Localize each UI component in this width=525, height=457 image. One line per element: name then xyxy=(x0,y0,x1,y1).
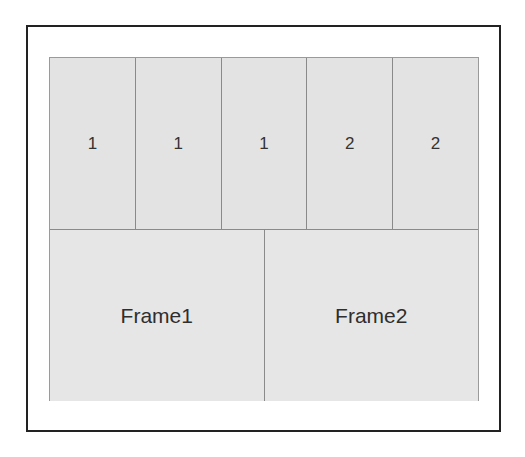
frame-block-2: Frame2 xyxy=(265,230,479,401)
slot-cell-4: 2 xyxy=(307,58,393,229)
slot-cell-2: 1 xyxy=(136,58,222,229)
frame-block-1: Frame1 xyxy=(50,230,265,401)
frame-grid: 1 1 1 2 2 Frame1 Frame2 xyxy=(49,57,479,401)
slot-cell-3: 1 xyxy=(222,58,308,229)
slot-label: 2 xyxy=(345,134,354,154)
frame-label: Frame1 xyxy=(121,304,193,328)
slot-label: 2 xyxy=(431,134,440,154)
slot-row: 1 1 1 2 2 xyxy=(50,58,478,230)
slot-cell-1: 1 xyxy=(50,58,136,229)
frame-row: Frame1 Frame2 xyxy=(50,230,478,401)
slot-label: 1 xyxy=(88,134,97,154)
slot-label: 1 xyxy=(259,134,268,154)
slot-cell-5: 2 xyxy=(393,58,478,229)
frame-label: Frame2 xyxy=(335,304,407,328)
slot-label: 1 xyxy=(173,134,182,154)
